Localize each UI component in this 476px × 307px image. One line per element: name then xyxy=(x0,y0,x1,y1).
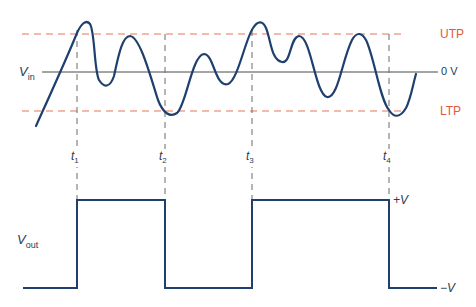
utp-label: UTP xyxy=(440,27,464,41)
plus-v-label: +V xyxy=(393,193,408,207)
t2-sub: 2 xyxy=(162,156,166,165)
ltp-label: LTP xyxy=(440,104,461,118)
t1-sub: 1 xyxy=(74,156,78,165)
t4-label: t4 xyxy=(383,149,391,165)
vout-label: Vout xyxy=(17,232,38,250)
zero-volt-label: 0 V xyxy=(441,65,458,77)
t3-sub: 3 xyxy=(249,156,253,165)
minus-v-label: −V xyxy=(440,281,455,295)
t4-sub: 4 xyxy=(386,156,390,165)
t2-label: t2 xyxy=(159,149,167,165)
time-guides xyxy=(77,30,389,200)
vin-label-main: V xyxy=(19,64,28,79)
output-waveform xyxy=(23,200,437,288)
t3-label: t3 xyxy=(246,149,254,165)
vout-label-sub: out xyxy=(26,240,39,250)
vin-label: Vin xyxy=(19,64,35,82)
vin-label-sub: in xyxy=(28,72,35,82)
t1-label: t1 xyxy=(71,149,79,165)
vout-label-main: V xyxy=(17,232,26,247)
